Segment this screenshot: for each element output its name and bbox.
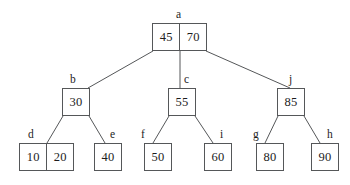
- node-label-j: j: [289, 74, 292, 86]
- tree-edge-c-i: [195, 116, 213, 143]
- b-tree-diagram: a4570b30c55j85d1020e40f50i60g80h90: [0, 0, 350, 185]
- tree-node-b[interactable]: 30: [62, 88, 90, 116]
- node-key-cell: 80: [257, 144, 283, 170]
- tree-node-f[interactable]: 50: [144, 143, 172, 171]
- node-key-cell: 85: [278, 89, 304, 115]
- node-label-f: f: [141, 129, 145, 141]
- node-label-e: e: [110, 129, 115, 141]
- node-key-cell: 45: [153, 24, 179, 50]
- node-label-b: b: [70, 74, 76, 86]
- node-key-cell: 70: [179, 24, 206, 50]
- tree-edge-a-b: [88, 51, 153, 88]
- node-label-g: g: [253, 129, 259, 141]
- tree-edge-c-f: [153, 116, 169, 143]
- node-key-cell: 60: [205, 144, 231, 170]
- node-key-cell: 30: [63, 89, 89, 115]
- node-label-h: h: [327, 129, 333, 141]
- tree-edge-j-h: [304, 116, 320, 143]
- node-label-i: i: [220, 129, 223, 141]
- node-key-cell: 90: [312, 144, 338, 170]
- tree-node-i[interactable]: 60: [204, 143, 232, 171]
- node-label-c: c: [184, 74, 189, 86]
- tree-node-j[interactable]: 85: [277, 88, 305, 116]
- node-key-cell: 40: [95, 144, 121, 170]
- tree-edge-b-e: [89, 116, 105, 143]
- tree-node-c[interactable]: 55: [168, 88, 196, 116]
- node-key-cell: 55: [169, 89, 195, 115]
- node-key-cell: 20: [46, 144, 73, 170]
- tree-edge-b-d: [47, 116, 63, 143]
- tree-node-h[interactable]: 90: [311, 143, 339, 171]
- tree-node-d[interactable]: 1020: [19, 143, 74, 171]
- tree-node-e[interactable]: 40: [94, 143, 122, 171]
- node-label-d: d: [28, 129, 34, 141]
- tree-node-a[interactable]: 4570: [152, 23, 207, 51]
- tree-edge-j-g: [265, 116, 278, 143]
- node-key-cell: 10: [20, 144, 46, 170]
- tree-node-g[interactable]: 80: [256, 143, 284, 171]
- node-key-cell: 50: [145, 144, 171, 170]
- tree-edge-a-j: [206, 51, 290, 88]
- node-label-a: a: [176, 9, 181, 21]
